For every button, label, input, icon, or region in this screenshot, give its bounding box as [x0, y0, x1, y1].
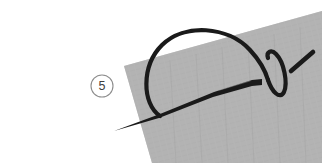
sewing-step-illustration: 5 — [0, 0, 322, 163]
step-number-marker: 5 — [91, 75, 113, 97]
step-number-label: 5 — [99, 79, 106, 93]
illustration-canvas: 5 — [0, 0, 322, 163]
